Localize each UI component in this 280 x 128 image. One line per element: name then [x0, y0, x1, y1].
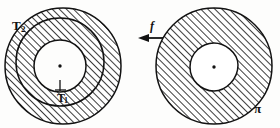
figure-container: T 2 T 1 f π	[0, 0, 280, 128]
right-center-dot	[212, 65, 215, 68]
diagram-canvas: T 2 T 1 f π	[0, 0, 280, 128]
right-assembly: π	[0, 0, 280, 128]
label-pi: π	[254, 101, 261, 116]
